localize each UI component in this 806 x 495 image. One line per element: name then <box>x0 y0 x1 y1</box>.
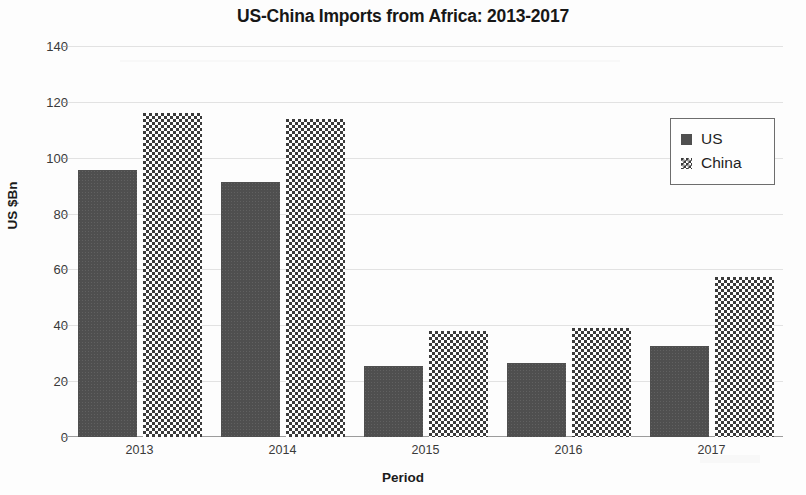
bar-china-2016[interactable] <box>572 328 631 437</box>
plot-area <box>68 46 783 437</box>
x-axis-tick-label: 2014 <box>243 443 323 457</box>
legend-swatch-china-icon <box>681 158 692 169</box>
legend-item-us[interactable]: US <box>681 127 764 151</box>
x-axis-title: Period <box>0 470 806 485</box>
y-axis-tick-mark <box>63 437 68 438</box>
bar-china-2015[interactable] <box>429 331 488 437</box>
x-axis-tick-label: 2013 <box>100 443 180 457</box>
gridline <box>68 46 783 47</box>
y-axis-tick-label: 20 <box>10 374 68 389</box>
bar-china-2013[interactable] <box>143 113 202 437</box>
bar-us-2014[interactable] <box>221 182 280 437</box>
y-axis-tick-label: 140 <box>10 39 68 54</box>
y-axis-tick-label: 60 <box>10 262 68 277</box>
legend-swatch-us-icon <box>681 134 692 145</box>
bar-chart: US-China Imports from Africa: 2013-2017 … <box>0 0 806 495</box>
y-axis-title: US $Bn <box>5 156 20 256</box>
x-axis-tick-label: 2017 <box>672 443 752 457</box>
bar-us-2015[interactable] <box>364 366 423 437</box>
bar-us-2013[interactable] <box>78 170 137 437</box>
legend-label-us: US <box>701 130 723 148</box>
x-axis-tick-label: 2015 <box>386 443 466 457</box>
y-axis-tick-label: 40 <box>10 318 68 333</box>
legend-item-china[interactable]: China <box>681 151 764 175</box>
x-axis: 20132014201520162017 <box>68 439 783 465</box>
bar-china-2017[interactable] <box>715 277 774 437</box>
gridline <box>68 102 783 103</box>
legend-label-china: China <box>701 154 742 172</box>
legend: US China <box>670 118 775 185</box>
y-axis-tick-label: 0 <box>10 430 68 445</box>
x-axis-tick-label: 2016 <box>529 443 609 457</box>
bar-china-2014[interactable] <box>286 119 345 437</box>
chart-title: US-China Imports from Africa: 2013-2017 <box>0 6 806 27</box>
y-axis-tick-label: 120 <box>10 94 68 109</box>
bar-us-2016[interactable] <box>507 363 566 437</box>
bar-us-2017[interactable] <box>650 346 709 437</box>
